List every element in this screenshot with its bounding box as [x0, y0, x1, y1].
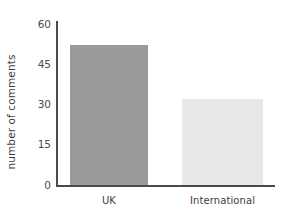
y-tick-label-0: 0 [25, 179, 51, 191]
bar-uk[interactable] [70, 45, 148, 185]
y-axis-line [56, 21, 58, 186]
y-tick-label-15: 15 [25, 138, 51, 150]
y-axis-title: number of comments [0, 0, 22, 224]
x-axis-line [56, 185, 275, 187]
x-category-label-uk: UK [70, 195, 148, 206]
x-category-label-international: International [182, 195, 263, 206]
y-tick-label-30: 30 [25, 98, 51, 110]
y-tick-label-45: 45 [25, 58, 51, 70]
bar-international[interactable] [182, 99, 263, 185]
bar-chart: number of comments 60 45 30 15 0 UK Inte… [0, 0, 285, 224]
y-tick-label-60: 60 [25, 18, 51, 30]
